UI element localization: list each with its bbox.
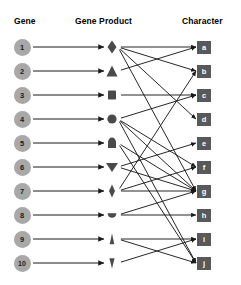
gene-to-product-edges bbox=[33, 47, 104, 263]
gene-node[interactable]: 6 bbox=[14, 159, 31, 176]
character-node[interactable]: f bbox=[197, 161, 211, 174]
gene-product-semicircle-down-icon[interactable] bbox=[105, 208, 119, 222]
gene-product-square-icon[interactable] bbox=[105, 88, 119, 102]
product-to-character-edge bbox=[121, 143, 196, 166]
gene-product-diamond-icon[interactable] bbox=[105, 40, 119, 54]
product-to-character-edge bbox=[119, 50, 196, 191]
product-to-character-edge bbox=[121, 168, 196, 191]
character-node[interactable]: b bbox=[197, 65, 211, 78]
product-to-character-edge bbox=[121, 95, 196, 118]
product-to-character-edge bbox=[121, 145, 196, 191]
gene-node[interactable]: 2 bbox=[14, 63, 31, 80]
gene-node[interactable]: 1 bbox=[14, 39, 31, 56]
gene-product-dome-icon[interactable] bbox=[105, 136, 119, 150]
character-node[interactable]: a bbox=[197, 41, 211, 54]
gene-product-triangle-up-icon[interactable] bbox=[105, 64, 119, 78]
product-to-character-edges bbox=[119, 47, 196, 263]
gene-node[interactable]: 8 bbox=[14, 207, 31, 224]
gene-product-spike-down-icon[interactable] bbox=[105, 256, 119, 270]
character-node[interactable]: j bbox=[197, 257, 211, 270]
gene-node[interactable]: 7 bbox=[14, 183, 31, 200]
gene-product-circle-icon[interactable] bbox=[105, 112, 119, 126]
gene-node[interactable]: 10 bbox=[14, 255, 31, 272]
character-node[interactable]: c bbox=[197, 89, 211, 102]
product-to-character-edge bbox=[120, 121, 196, 191]
gene-node[interactable]: 5 bbox=[14, 135, 31, 152]
character-node[interactable]: g bbox=[197, 185, 211, 198]
product-to-character-edge bbox=[121, 239, 196, 262]
pathway-diagram: Gene Gene Product Character 12345678910 … bbox=[0, 0, 241, 285]
gene-node[interactable]: 3 bbox=[14, 87, 31, 104]
character-node[interactable]: h bbox=[197, 209, 211, 222]
product-to-character-edge bbox=[121, 167, 196, 190]
product-to-character-edge bbox=[121, 240, 196, 263]
gene-node[interactable]: 4 bbox=[14, 111, 31, 128]
character-node[interactable]: e bbox=[197, 137, 211, 150]
character-node[interactable]: i bbox=[197, 233, 211, 246]
gene-product-diamond-narrow-icon[interactable] bbox=[105, 184, 119, 198]
gene-node[interactable]: 9 bbox=[14, 231, 31, 248]
character-node[interactable]: d bbox=[197, 113, 211, 126]
product-to-character-edge bbox=[119, 122, 196, 263]
gene-product-spike-up-icon[interactable] bbox=[105, 232, 119, 246]
gene-product-triangle-down-icon[interactable] bbox=[105, 160, 119, 174]
product-to-character-edge bbox=[121, 47, 196, 70]
